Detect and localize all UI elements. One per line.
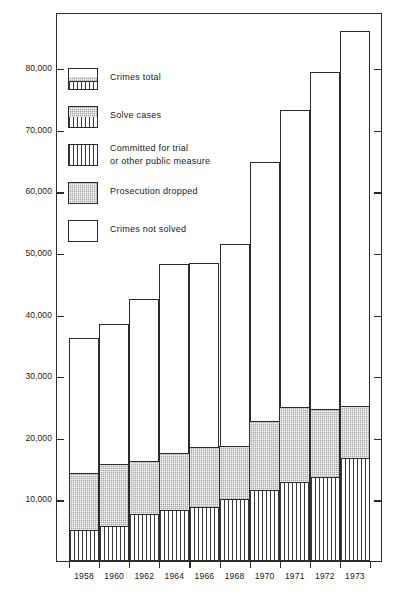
bar-segment-committed-for-trial-1962 xyxy=(129,514,160,561)
legend-swatch-solved xyxy=(68,106,98,128)
bar-segment-committed-for-trial-1970 xyxy=(249,490,280,561)
x-axis-label-1966: 1966 xyxy=(187,571,221,581)
x-axis-label-1970: 1970 xyxy=(248,571,282,581)
x-tick-1958 xyxy=(99,562,100,568)
y-tick-label: 30,000 xyxy=(25,371,52,381)
x-axis-label-1958: 1958 xyxy=(67,571,101,581)
bar-segment-committed-for-trial-1968 xyxy=(219,499,250,561)
legend-swatch-stacked-total xyxy=(68,68,98,90)
legend-item-dropped: Prosecution dropped xyxy=(68,180,278,218)
x-tick-1970 xyxy=(280,562,281,568)
bar-1972 xyxy=(310,72,340,562)
bar-segment-committed-for-trial-1964 xyxy=(159,510,190,561)
x-tick-1972 xyxy=(340,562,341,568)
x-tick-1960 xyxy=(129,562,130,568)
legend-item-committed: Committed for trial or other public meas… xyxy=(68,142,278,180)
legend-item-not-solved: Crimes not solved xyxy=(68,218,278,256)
legend-label: Prosecution dropped xyxy=(110,185,198,198)
legend-swatch-band xyxy=(69,82,97,89)
x-axis-label-1971: 1971 xyxy=(278,571,312,581)
y-tick-label: 70,000 xyxy=(25,125,52,135)
y-tick-label: 20,000 xyxy=(25,433,52,443)
x-axis-label-1968: 1968 xyxy=(218,571,252,581)
legend-swatch-band xyxy=(69,183,97,203)
legend-swatch-committed xyxy=(68,144,98,166)
x-tick-1966 xyxy=(220,562,221,568)
bar-segment-committed-for-trial-1966 xyxy=(189,507,220,561)
x-axis-label-1973: 1973 xyxy=(338,571,372,581)
legend-label: Committed for trial or other public meas… xyxy=(110,142,210,167)
y-tick-label: 60,000 xyxy=(25,186,52,196)
bar-1968 xyxy=(220,244,250,562)
x-axis-label-1964: 1964 xyxy=(157,571,191,581)
bar-segment-committed-for-trial-1973 xyxy=(340,458,371,561)
bar-segment-committed-for-trial-1958 xyxy=(69,530,100,561)
bar-1971 xyxy=(280,110,310,562)
x-tick-1968 xyxy=(250,562,251,568)
legend-swatch-dropped xyxy=(68,182,98,204)
legend-label: Crimes total xyxy=(110,71,161,84)
legend-swatch-band xyxy=(69,221,97,241)
y-tick-label: 40,000 xyxy=(25,310,52,320)
bar-1960 xyxy=(99,324,129,562)
y-tick-label: 50,000 xyxy=(25,248,52,258)
legend-label: Solve cases xyxy=(110,109,161,122)
y-tick-label: 80,000 xyxy=(25,63,52,73)
y-tick-label: 10,000 xyxy=(25,494,52,504)
x-tick-1971 xyxy=(310,562,311,568)
legend-swatch-band xyxy=(69,117,97,127)
legend-item-solved: Solve cases xyxy=(68,104,278,142)
x-axis-label-1972: 1972 xyxy=(308,571,342,581)
x-tick-1964 xyxy=(189,562,190,568)
bar-1962 xyxy=(129,299,159,562)
x-tick-origin xyxy=(69,562,70,568)
bar-segment-committed-for-trial-1960 xyxy=(99,526,130,561)
x-axis-label-1962: 1962 xyxy=(127,571,161,581)
bar-1966 xyxy=(189,263,219,562)
bar-1964 xyxy=(159,264,189,562)
x-tick-1962 xyxy=(159,562,160,568)
legend-item-stacked-total: Crimes total xyxy=(68,66,278,104)
x-axis-label-1960: 1960 xyxy=(97,571,131,581)
legend-swatch-band xyxy=(69,107,97,117)
bar-1973 xyxy=(340,31,370,562)
bar-segment-committed-for-trial-1971 xyxy=(279,482,310,561)
chart-legend: Crimes totalSolve casesCommitted for tri… xyxy=(68,66,278,256)
legend-label: Crimes not solved xyxy=(110,223,186,236)
bar-1958 xyxy=(69,338,99,562)
legend-swatch-not-solved xyxy=(68,220,98,242)
legend-swatch-band xyxy=(69,145,97,165)
crime-statistics-chart: Number of crimes 10,00020,00030,00040,00… xyxy=(0,0,396,597)
bar-segment-committed-for-trial-1972 xyxy=(310,477,341,561)
x-tick-1973 xyxy=(370,562,371,568)
